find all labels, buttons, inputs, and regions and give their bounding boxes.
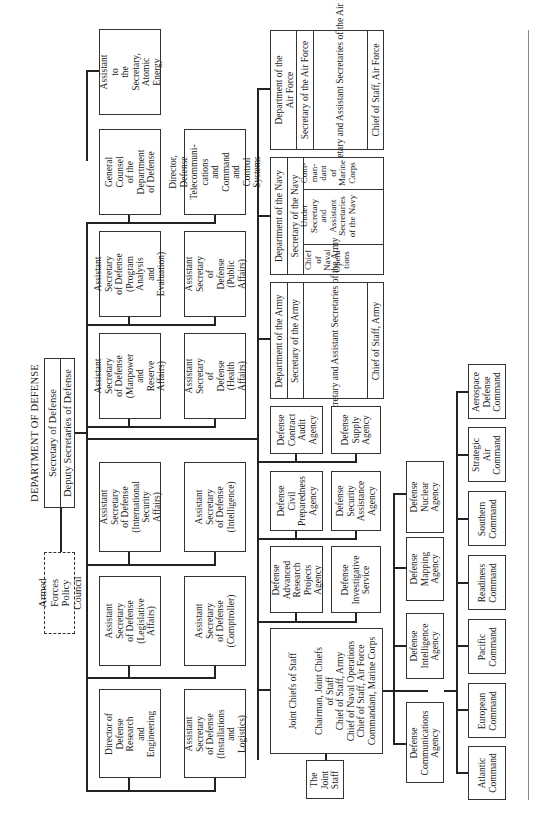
office-comptroller: Assistant Secretary of Defense (Comptrol…: [184, 576, 246, 666]
agency-label: Defense Investigative Service: [340, 555, 372, 604]
office-label: Director, Defense Telecommuni- cations a…: [168, 144, 263, 199]
connector: [60, 508, 62, 552]
connector: [214, 317, 216, 325]
connector: [393, 743, 406, 745]
agency-label: Defense Supply Agency: [340, 414, 372, 445]
connector: [456, 518, 468, 520]
agency-label: Defense Civil Preparedness Agency: [276, 476, 318, 526]
command-label: Atlantic Command: [477, 753, 498, 793]
army-secretary: Secretary of the Army: [290, 298, 301, 382]
office-label: Assistant Secretary of Defense (Comptrol…: [194, 595, 236, 648]
agency-security-assistance: Defense Security Assistance Agency: [331, 471, 381, 531]
connector: [456, 772, 468, 774]
connector: [393, 645, 406, 647]
agency-advanced-research: Defense Advanced Research Projects Agenc…: [270, 546, 323, 613]
office-label: Assistant Secretary of Defense (Intellig…: [194, 481, 236, 532]
connector: [128, 666, 130, 678]
connector: [86, 438, 258, 440]
command-aerospace-defense: Aerospace Defense Command: [468, 364, 506, 419]
agency-label: Defense Nuclear Agency: [409, 481, 441, 512]
connector: [295, 613, 297, 622]
secretary-of-defense-box: Secretary of Defense Deputy Secretaries …: [44, 358, 75, 508]
office-label: Assistant Secretary of Defense (Legislat…: [104, 598, 157, 643]
army-chief: Chief of Staff, Army: [371, 301, 382, 379]
agencies-trunk: [257, 88, 259, 760]
command-label: Aerospace Defense Command: [471, 371, 503, 411]
office-health-affairs: Assistant Secretary of Defense (Health A…: [184, 333, 246, 419]
connector: [257, 88, 270, 90]
office-label: Assistant Secretary of Defense (Internat…: [99, 481, 162, 533]
office-international-security: Assistant Secretary of Defense (Internat…: [99, 462, 161, 552]
department-air-force: Department of the Air Force Secretary of…: [270, 30, 384, 150]
office-atomic-energy: Assistant to the Secretary, Atomic Energ…: [99, 29, 161, 115]
agency-label: Defense Advanced Research Projects Agenc…: [270, 560, 323, 599]
connector: [86, 70, 99, 72]
connector: [383, 690, 428, 692]
office-label: Assistant Secretary of Defense (Public A…: [184, 256, 247, 292]
air-force-secretary: Secretary of the Air Force: [300, 41, 311, 140]
air-force-name: Department of the Air Force: [274, 35, 295, 145]
office-telecommunications: Director, Defense Telecommuni- cations a…: [184, 129, 246, 215]
command-pacific: Pacific Command: [468, 619, 506, 674]
connector: [393, 567, 406, 569]
agency-contract-audit: Defense Contract Audit Agency: [270, 406, 323, 454]
chart-title: DEPARTMENT OF DEFENSE: [29, 364, 40, 502]
connector: [86, 426, 216, 428]
connector: [214, 778, 216, 791]
office-label: Assistant Secretary of Defense (Installa…: [184, 709, 247, 759]
connector: [86, 564, 216, 566]
connector: [86, 324, 216, 326]
osd-trunk: [86, 70, 88, 161]
connector: [257, 338, 270, 340]
agency-label: Defense Intelligence Agency: [409, 624, 441, 669]
connector: [128, 215, 130, 223]
office-program-analysis: Assistant Secretary of Defense (Program …: [99, 231, 161, 317]
connector: [257, 689, 270, 691]
office-label: General Counsel of the Department of Def…: [104, 150, 157, 195]
connector: [128, 419, 130, 427]
agency-label: Defense Security Assistance Agency: [335, 481, 377, 522]
page-rule: [528, 30, 529, 800]
office-public-affairs: Assistant Secretary of Defense (Public A…: [184, 231, 246, 317]
department-army: Department of the Army Secretary of the …: [270, 282, 384, 399]
joint-staff-label: The Joint Staff: [309, 770, 341, 788]
connector: [214, 666, 216, 678]
command-label: Pacific Command: [477, 627, 498, 667]
connector: [355, 531, 357, 539]
office-intelligence: Assistant Secretary of Defense (Intellig…: [184, 462, 246, 552]
agency-label: Defense Communications Agency: [409, 710, 441, 775]
agency-mapping: Defense Mapping Agency: [406, 537, 444, 601]
osd-trunk: [86, 222, 88, 792]
the-joint-staff: The Joint Staff: [306, 760, 344, 799]
jcs-title: Joint Chiefs of Staff: [288, 653, 299, 730]
connector: [257, 461, 357, 463]
office-label: Assistant Secretary of Defense (Health A…: [184, 358, 247, 394]
agency-label: Defense Mapping Agency: [409, 552, 441, 586]
command-atlantic: Atlantic Command: [468, 746, 506, 800]
office-label: Assistant to the Secretary, Atomic Energ…: [99, 53, 162, 91]
agency-supply: Defense Supply Agency: [331, 406, 381, 454]
agency-communications: Defense Communications Agency: [406, 702, 444, 783]
agency-intelligence: Defense Intelligence Agency: [406, 613, 444, 679]
office-general-counsel: General Counsel of the Department of Def…: [99, 129, 161, 215]
connector: [355, 454, 357, 462]
command-label: Readiness Command: [477, 563, 498, 603]
connector: [355, 613, 357, 622]
office-research-engineering: Director of Defense Research and Enginee…: [99, 689, 161, 778]
connector: [456, 645, 468, 647]
office-installations-logistics: Assistant Secretary of Defense (Installa…: [184, 689, 246, 778]
jcs-agencies-trunk: [393, 493, 395, 744]
connector: [444, 690, 457, 692]
office-label: Assistant Secretary of Defense (Program …: [93, 252, 167, 296]
office-manpower: Assistant Secretary of Defense (Manpower…: [99, 333, 161, 419]
joint-chiefs-of-staff: Joint Chiefs of Staff Chairman, Joint Ch…: [270, 628, 383, 754]
connector: [128, 552, 130, 565]
secretary-of-defense-label: Secretary of Defense: [47, 389, 59, 477]
command-european: European Command: [468, 683, 506, 738]
army-name: Department of the Army: [274, 294, 285, 387]
connector: [257, 538, 357, 540]
connector: [86, 790, 216, 792]
connector: [214, 419, 216, 427]
connector: [214, 552, 216, 565]
navy-commandant: Com- man- dant of Marine Corps: [300, 160, 357, 186]
